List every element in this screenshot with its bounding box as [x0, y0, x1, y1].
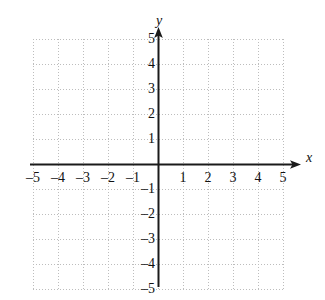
x-tick-label: –3: [70, 171, 96, 185]
x-tick-label: 4: [245, 171, 271, 185]
x-axis-label: x: [306, 151, 312, 165]
y-tick-label: 2: [133, 107, 155, 121]
y-tick-label: –2: [133, 207, 155, 221]
y-tick-label: 5: [133, 32, 155, 46]
y-tick-label: –3: [133, 232, 155, 246]
y-tick-label: –5: [133, 282, 155, 296]
x-tick-label: 3: [220, 171, 246, 185]
x-tick-label: 1: [170, 171, 196, 185]
y-tick-label: 3: [133, 82, 155, 96]
coordinate-plane-figure: x y –5–4–3–2–11234554321–1–2–3–4–5: [0, 0, 325, 300]
x-tick-label: 5: [270, 171, 296, 185]
y-tick-label: –4: [133, 257, 155, 271]
x-tick-label: –4: [45, 171, 71, 185]
y-tick-label: –1: [133, 182, 155, 196]
y-tick-label: 4: [133, 57, 155, 71]
y-axis-label: y: [156, 14, 162, 28]
x-tick-label: –2: [95, 171, 121, 185]
axes-lines: [0, 0, 325, 300]
x-tick-label: 2: [195, 171, 221, 185]
x-tick-label: –5: [20, 171, 46, 185]
y-tick-label: 1: [133, 132, 155, 146]
